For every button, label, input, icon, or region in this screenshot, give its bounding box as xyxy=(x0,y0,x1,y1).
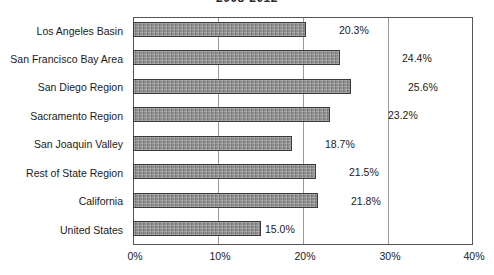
data-label-san-joaquin-valley: 18.7% xyxy=(325,138,355,150)
category-label-los-angeles-basin: Los Angeles Basin xyxy=(37,25,123,37)
category-label-san-francisco-bay-area: San Francisco Bay Area xyxy=(10,53,123,65)
data-label-san-diego-region: 25.6% xyxy=(408,81,438,93)
data-label-sacramento-region: 23.2% xyxy=(388,109,418,121)
data-label-los-angeles-basin: 20.3% xyxy=(339,24,369,36)
category-label-san-diego-region: San Diego Region xyxy=(38,81,123,93)
data-labels-layer: 20.3% 24.4% 25.6% 23.2% 18.7% 21.5% 21.8… xyxy=(133,17,494,245)
x-tick-30: 30% xyxy=(379,250,400,262)
data-label-united-states: 15.0% xyxy=(265,223,295,235)
data-label-san-francisco-bay-area: 24.4% xyxy=(402,52,432,64)
category-label-united-states: United States xyxy=(60,224,123,236)
data-label-rest-of-state-region: 21.5% xyxy=(349,166,379,178)
x-tick-0: 0% xyxy=(127,250,142,262)
category-label-rest-of-state-region: Rest of State Region xyxy=(26,167,123,179)
bar-chart: Los Angeles Basin San Francisco Bay Area… xyxy=(0,0,494,275)
category-label-sacramento-region: Sacramento Region xyxy=(30,110,123,122)
category-label-san-joaquin-valley: San Joaquin Valley xyxy=(34,138,123,150)
x-tick-20: 20% xyxy=(294,250,315,262)
x-axis-tick-labels: 0% 10% 20% 30% 40% xyxy=(0,250,494,266)
x-tick-40: 40% xyxy=(463,250,484,262)
x-tick-10: 10% xyxy=(209,250,230,262)
category-axis-labels: Los Angeles Basin San Francisco Bay Area… xyxy=(0,17,128,245)
category-label-california: California xyxy=(79,195,123,207)
data-label-california: 21.8% xyxy=(351,195,381,207)
